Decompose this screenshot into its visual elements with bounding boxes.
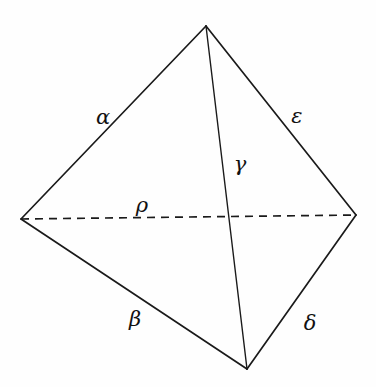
label-gamma: γ	[234, 154, 247, 175]
edge-beta	[21, 219, 247, 369]
tetrahedron-edges	[0, 0, 376, 387]
label-alpha: α	[96, 107, 110, 128]
edge-alpha	[21, 26, 206, 219]
label-beta: β	[129, 309, 141, 330]
edge-delta	[247, 215, 356, 369]
edge-epsilon	[206, 26, 356, 215]
edge-rho	[21, 215, 356, 219]
edge-gamma	[206, 26, 247, 369]
label-rho: ρ	[136, 195, 148, 216]
label-epsilon: ε	[291, 106, 302, 127]
label-delta: δ	[304, 313, 317, 334]
tetrahedron-diagram: α ε γ ρ β δ	[0, 0, 376, 387]
